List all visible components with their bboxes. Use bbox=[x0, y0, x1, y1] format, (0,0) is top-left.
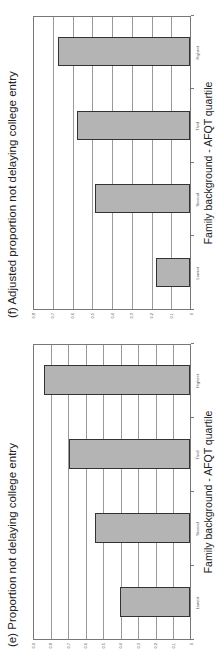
y-tick-label: 0.1 bbox=[169, 313, 174, 327]
rotated-page: (e) Proportion not delaying college entr… bbox=[0, 0, 220, 661]
plot-area bbox=[33, 16, 191, 310]
y-tick-label: 0.8 bbox=[48, 643, 53, 657]
y-tick-label: 0.7 bbox=[66, 643, 71, 657]
x-tick-label: Lowest bbox=[195, 588, 200, 618]
x-tick-label: Second bbox=[195, 185, 200, 215]
y-tick-label: 0.4 bbox=[110, 313, 115, 327]
y-tick-label: 0.2 bbox=[153, 643, 158, 657]
x-tick-label: Highest bbox=[195, 366, 200, 396]
y-tick-label: 0.8 bbox=[31, 313, 36, 327]
plot-area bbox=[33, 344, 191, 640]
bar-lowest bbox=[156, 258, 190, 287]
y-tick-label: 0.4 bbox=[118, 643, 123, 657]
x-tick-mark bbox=[191, 417, 194, 418]
y-tick-label: 0 bbox=[189, 643, 194, 657]
y-tick-label: 0.5 bbox=[101, 643, 106, 657]
bar-second bbox=[95, 513, 190, 543]
x-axis-label: Family background - AFQT quartile bbox=[202, 344, 214, 640]
gridline bbox=[53, 17, 54, 309]
x-tick-label: Third bbox=[195, 111, 200, 141]
x-tick-mark bbox=[191, 491, 194, 492]
chart-f: (f) Adjusted proportion not delaying col… bbox=[0, 0, 220, 320]
x-tick-mark bbox=[191, 15, 194, 16]
x-tick-mark bbox=[191, 639, 194, 640]
bar-third bbox=[69, 439, 190, 469]
x-tick-label: Lowest bbox=[195, 258, 200, 288]
y-tick-label: 0.6 bbox=[70, 313, 75, 327]
y-tick-label: 0 bbox=[189, 313, 194, 327]
y-tick-label: 0.7 bbox=[50, 313, 55, 327]
x-tick-mark bbox=[191, 236, 194, 237]
y-tick-label: 0.3 bbox=[136, 643, 141, 657]
x-tick-mark bbox=[191, 89, 194, 90]
bar-highest bbox=[58, 37, 190, 66]
y-tick-label: 0.6 bbox=[83, 643, 88, 657]
bar-lowest bbox=[120, 587, 190, 617]
chart-title: (f) Adjusted proportion not delaying col… bbox=[6, 71, 18, 318]
chart-title: (e) Proportion not delaying college entr… bbox=[6, 443, 18, 647]
chart-e: (e) Proportion not delaying college entr… bbox=[0, 330, 220, 661]
x-tick-mark bbox=[191, 565, 194, 566]
bar-third bbox=[77, 111, 190, 140]
x-tick-mark bbox=[191, 343, 194, 344]
x-tick-mark bbox=[191, 309, 194, 310]
x-tick-label: Highest bbox=[195, 38, 200, 68]
bar-second bbox=[95, 184, 190, 213]
x-tick-label: Third bbox=[195, 440, 200, 470]
x-tick-label: Second bbox=[195, 514, 200, 544]
x-tick-mark bbox=[191, 162, 194, 163]
y-tick-label: 0.3 bbox=[129, 313, 134, 327]
y-tick-label: 0.9 bbox=[31, 643, 36, 657]
x-axis-label: Family background - AFQT quartile bbox=[202, 16, 214, 310]
y-tick-label: 0.5 bbox=[90, 313, 95, 327]
bar-highest bbox=[44, 365, 190, 395]
y-tick-label: 0.1 bbox=[171, 643, 176, 657]
y-tick-label: 0.2 bbox=[149, 313, 154, 327]
